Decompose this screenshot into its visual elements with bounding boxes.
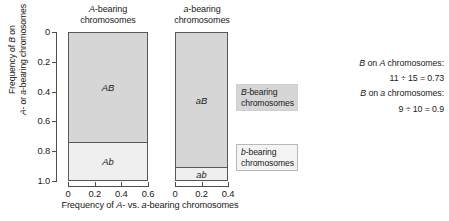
panel-title-b-line1: a-bearing: [183, 4, 220, 14]
y-tick-10: [52, 181, 57, 182]
segment-AB-label: AB: [102, 82, 115, 93]
panel-title-a-bearing: A-bearing chromosomes: [58, 4, 158, 26]
x-tick-label-p2-0: 0: [163, 188, 187, 199]
calc-line-2: 11 ÷ 15 = 0.73: [318, 71, 444, 86]
panel-title-a-lower-bearing: a-bearing chromosomes: [152, 4, 252, 26]
x-axis-line-panel1: [68, 186, 149, 187]
segment-aB: aB: [176, 33, 227, 167]
y-tick-label-08: 0.8: [20, 145, 50, 156]
x-tick-p2-04: [228, 182, 229, 186]
bar-a-lower-bearing: aB ab: [175, 32, 228, 181]
segment-Ab-label: Ab: [102, 156, 113, 167]
panel-title-b-line2: chromosomes: [174, 15, 229, 25]
x-tick-label-p2-02: 0.2: [190, 188, 214, 199]
y-tick-08: [52, 151, 57, 152]
x-tick-label-p2-04: 0.4: [216, 188, 240, 199]
x-axis-title: Frequency of A- vs. a-bearing chromosome…: [28, 200, 272, 210]
y-tick-label-0: 0: [20, 26, 50, 37]
legend-B-line2: chromosomes: [241, 98, 294, 108]
segment-Ab: Ab: [69, 142, 147, 180]
legend-b-line1: b-bearing: [241, 147, 276, 157]
x-tick-p2-02: [202, 182, 203, 186]
x-tick-label-p1-06: 0.6: [136, 188, 160, 199]
y-axis-title-line1: Frequency of B on: [7, 25, 17, 94]
calc-line-4: 9 ÷ 10 = 0.9: [318, 102, 444, 117]
figure-canvas: Frequency of B on A- or a-bearing chromo…: [0, 0, 449, 221]
segment-ab-label: ab: [196, 169, 206, 180]
panel-title-a-line1: A-bearing: [89, 4, 127, 14]
y-tick-04: [52, 92, 57, 93]
x-tick-label-p1-04: 0.4: [109, 188, 133, 199]
bar-a-bearing: AB Ab: [68, 32, 148, 181]
y-tick-label-04: 0.4: [20, 86, 50, 97]
calc-line-1: B on A chromosomes:: [318, 56, 444, 71]
y-tick-label-02: 0.2: [20, 56, 50, 67]
legend-b-line2: chromosomes: [241, 158, 294, 168]
y-tick-02: [52, 62, 57, 63]
x-tick-p1-04: [121, 182, 122, 186]
x-tick-label-p1-02: 0.2: [83, 188, 107, 199]
segment-aB-label: aB: [196, 95, 207, 106]
y-axis-line: [56, 32, 57, 181]
segment-AB: AB: [69, 33, 147, 142]
y-tick-06: [52, 121, 57, 122]
calc-line-3: B on a chromosomes:: [318, 86, 444, 101]
x-tick-p1-02: [95, 182, 96, 186]
segment-ab: ab: [176, 167, 227, 180]
x-tick-p2-0: [175, 182, 176, 186]
y-tick-label-10: 1.0: [20, 175, 50, 186]
legend-item-b-bearing: b-bearing chromosomes: [236, 144, 298, 171]
y-tick-0: [52, 32, 57, 33]
legend-B-line1: B-bearing: [241, 87, 277, 97]
legend-item-B-bearing: B-bearing chromosomes: [236, 84, 298, 111]
x-tick-label-p1-0: 0: [56, 188, 80, 199]
x-tick-p1-0: [68, 182, 69, 186]
calculations-block: B on A chromosomes: 11 ÷ 15 = 0.73 B on …: [318, 56, 444, 117]
x-tick-p1-06: [148, 182, 149, 186]
panel-title-a-line2: chromosomes: [80, 15, 135, 25]
x-axis-line-panel2: [175, 186, 229, 187]
y-tick-label-06: 0.6: [20, 115, 50, 126]
